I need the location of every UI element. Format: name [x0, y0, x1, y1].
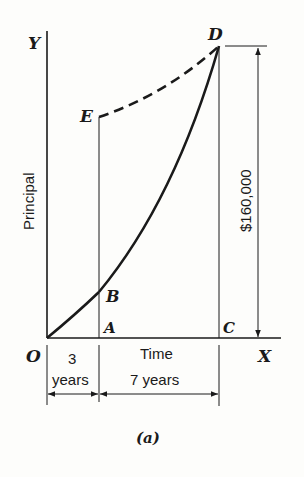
interval-7-label: 7 years	[130, 371, 179, 388]
figure-caption: (a)	[136, 429, 160, 447]
y-axis-label: Y	[28, 33, 42, 53]
dimension-amount: $160,000	[237, 169, 254, 232]
curve-o-b	[47, 292, 99, 338]
y-axis-title: Principal	[20, 172, 37, 230]
x-axis-label: X	[257, 346, 272, 366]
point-label-e: E	[79, 106, 94, 126]
point-label-c: C	[223, 319, 235, 337]
interval-3-unit: years	[52, 371, 89, 388]
curve-b-d	[99, 46, 219, 292]
origin-label: O	[26, 346, 41, 366]
point-label-d: D	[207, 24, 223, 44]
interval-3-number: 3	[68, 350, 76, 367]
x-axis-title: Time	[140, 345, 173, 362]
point-label-b: B	[105, 287, 120, 306]
principal-time-diagram: Y X O D E B A C Principal $160,000 Time …	[0, 0, 304, 477]
point-label-a: A	[102, 319, 116, 337]
